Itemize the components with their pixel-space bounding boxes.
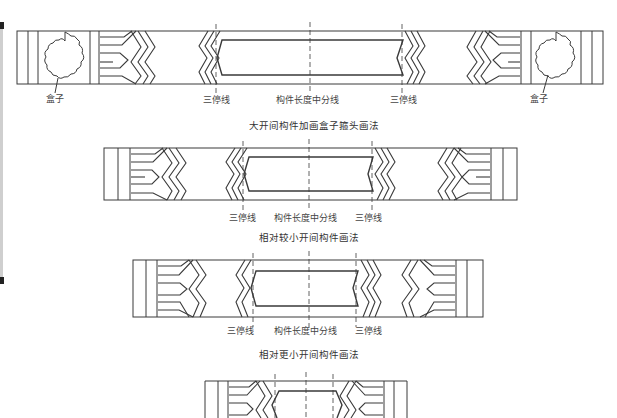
box-label-left: 盒子 xyxy=(46,95,64,104)
caption-large-span: 大开间构件加画盒子箍头画法 xyxy=(249,121,379,131)
reference-lines xyxy=(216,22,402,93)
caption-smaller-span: 相对较小开间构件画法 xyxy=(259,233,359,243)
third-line-label-left: 三停线 xyxy=(227,327,254,336)
third-line-label-right: 三停线 xyxy=(390,96,417,105)
zigzag-fan-right xyxy=(467,31,520,84)
zigzag-inner-left xyxy=(236,260,251,317)
third-line-label-right: 三停线 xyxy=(355,214,382,223)
zigzag-inner-right xyxy=(361,260,381,317)
beam-outline xyxy=(104,148,517,200)
center-line-label: 构件长度中分线 xyxy=(274,214,337,223)
zigzag-fan-left xyxy=(158,260,206,317)
beam-smallest-span-cropped xyxy=(205,372,407,418)
box-label-right: 盒子 xyxy=(530,95,548,104)
beam-large-span xyxy=(17,22,603,93)
beam-even-smaller-span xyxy=(133,251,483,327)
zigzag-fan-left xyxy=(131,148,186,200)
center-panel xyxy=(272,391,342,418)
cartouche-icon xyxy=(45,32,84,78)
zigzag-fan-left xyxy=(100,31,155,84)
center-line-label: 构件长度中分线 xyxy=(274,327,337,336)
center-line-label: 构件长度中分线 xyxy=(276,96,339,105)
zigzag-fan-right xyxy=(438,148,490,200)
cartouche-icon xyxy=(536,32,575,78)
reference-lines xyxy=(275,372,333,418)
reference-lines xyxy=(253,251,356,327)
center-panel xyxy=(244,157,373,191)
zigzag-fan-right xyxy=(340,381,383,418)
third-line-label-left: 三停线 xyxy=(229,214,256,223)
center-panel xyxy=(251,271,358,306)
caption-even-smaller-span: 相对更小开间构件画法 xyxy=(259,350,359,360)
zigzag-inner-right xyxy=(405,31,425,84)
third-line-label-right: 三停线 xyxy=(355,327,382,336)
third-line-label-left: 三停线 xyxy=(203,96,230,105)
reference-lines xyxy=(243,139,372,210)
zigzag-fan-right xyxy=(402,260,455,317)
beam-smaller-span xyxy=(104,139,517,210)
zigzag-inner-right xyxy=(375,148,395,200)
zigzag-fan-left xyxy=(229,381,272,418)
